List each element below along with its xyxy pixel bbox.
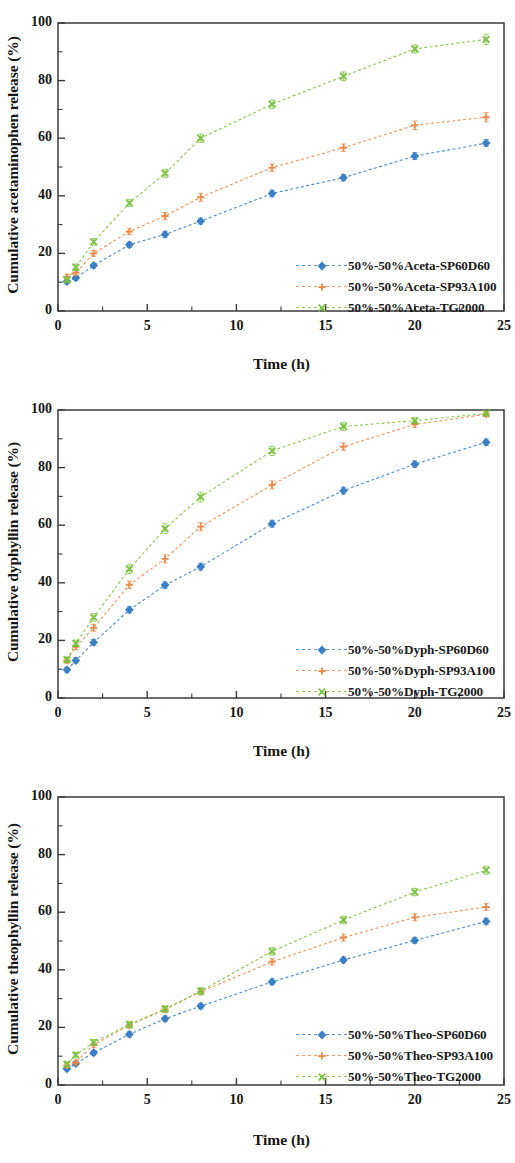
y-tick-label: 40 (18, 961, 52, 977)
y-tick-label: 60 (18, 129, 52, 145)
legend-item[interactable]: 50%-50%Dyph-SP93A100 (296, 661, 495, 680)
legend-item[interactable]: 50%-50%Theo-SP60D60 (296, 1025, 493, 1044)
x-tick-label: 15 (311, 705, 341, 721)
legend-swatch-plus-icon (296, 280, 348, 294)
x-tick-label: 5 (132, 318, 162, 334)
y-tick-label: 80 (18, 72, 52, 88)
x-tick-label: 25 (489, 318, 515, 334)
legend-label: 50%-50%Dyph-TG2000 (348, 684, 483, 700)
x-tick-label: 5 (132, 1092, 162, 1108)
legend-swatch-cross-icon (296, 685, 348, 699)
legend-item[interactable]: 50%-50%Aceta-SP93A100 (296, 277, 496, 296)
x-tick-label: 15 (311, 1092, 341, 1108)
chart-panel-dyphyllin: Cumulative dyphyllin release (%) 50%-50%… (0, 387, 515, 774)
x-tick-label: 0 (43, 705, 73, 721)
x-tick-label: 5 (132, 705, 162, 721)
legend-label: 50%-50%Dyph-SP60D60 (348, 642, 489, 658)
legend-swatch-cross-icon (296, 1070, 348, 1084)
y-tick-label: 100 (18, 788, 52, 804)
y-tick-label: 60 (18, 903, 52, 919)
legend-item[interactable]: 50%-50%Aceta-TG2000 (296, 298, 496, 317)
legend-swatch-diamond-icon (296, 1028, 348, 1042)
legend-item[interactable]: 50%-50%Theo-TG2000 (296, 1067, 493, 1086)
legend-label: 50%-50%Theo-SP93A100 (348, 1048, 493, 1064)
x-tick-label: 0 (43, 318, 73, 334)
y-tick-label: 80 (18, 459, 52, 475)
x-tick-label: 20 (400, 318, 430, 334)
plot-area-acetaminophen (0, 0, 515, 389)
x-axis-title: Time (h) (58, 1131, 505, 1149)
y-tick-label: 40 (18, 574, 52, 590)
x-tick-label: 25 (489, 705, 515, 721)
y-tick-label: 20 (18, 244, 52, 260)
plot-area-theophyllin (0, 774, 515, 1163)
x-tick-label: 15 (311, 318, 341, 334)
legend-dyphyllin: 50%-50%Dyph-SP60D6050%-50%Dyph-SP93A1005… (296, 640, 495, 701)
data-point-marker (318, 1052, 325, 1059)
data-point-marker (319, 262, 326, 269)
legend-swatch-cross-icon (296, 301, 348, 315)
y-tick-label: 80 (18, 846, 52, 862)
data-point-marker (319, 304, 326, 311)
legend-theophyllin: 50%-50%Theo-SP60D6050%-50%Theo-SP93A1005… (296, 1025, 493, 1086)
legend-swatch-diamond-icon (296, 643, 348, 657)
y-tick-label: 0 (18, 302, 52, 318)
legend-item[interactable]: 50%-50%Aceta-SP60D60 (296, 256, 496, 275)
data-point-marker (319, 646, 326, 653)
data-point-marker (319, 1073, 326, 1080)
legend-label: 50%-50%Aceta-SP60D60 (348, 258, 490, 274)
legend-swatch-plus-icon (296, 1049, 348, 1063)
x-tick-label: 20 (400, 1092, 430, 1108)
legend-label: 50%-50%Theo-TG2000 (348, 1069, 481, 1085)
legend-item[interactable]: 50%-50%Theo-SP93A100 (296, 1046, 493, 1065)
legend-label: 50%-50%Aceta-TG2000 (348, 300, 484, 316)
data-point-marker (319, 1031, 326, 1038)
chart-panel-theophyllin: Cumulative theophyllin release (%) 50%-5… (0, 774, 515, 1163)
x-tick-label: 10 (221, 1092, 251, 1108)
y-tick-label: 0 (18, 689, 52, 705)
plot-area-dyphyllin (0, 387, 515, 776)
x-tick-label: 0 (43, 1092, 73, 1108)
legend-swatch-diamond-icon (296, 259, 348, 273)
y-tick-label: 0 (18, 1076, 52, 1092)
legend-item[interactable]: 50%-50%Dyph-TG2000 (296, 682, 495, 701)
y-tick-label: 100 (18, 14, 52, 30)
x-tick-label: 10 (221, 705, 251, 721)
x-axis-title: Time (h) (58, 355, 505, 373)
legend-swatch-plus-icon (296, 664, 348, 678)
x-tick-label: 20 (400, 705, 430, 721)
data-point-marker (319, 688, 326, 695)
data-point-marker (318, 667, 325, 674)
legend-acetaminophen: 50%-50%Aceta-SP60D6050%-50%Aceta-SP93A10… (296, 256, 496, 317)
y-tick-label: 40 (18, 187, 52, 203)
x-tick-label: 25 (489, 1092, 515, 1108)
y-tick-label: 20 (18, 1018, 52, 1034)
y-tick-label: 20 (18, 631, 52, 647)
chart-panel-acetaminophen: Cumulative acetaminophen release (%) 50%… (0, 0, 515, 387)
legend-label: 50%-50%Aceta-SP93A100 (348, 279, 496, 295)
y-tick-label: 100 (18, 401, 52, 417)
legend-label: 50%-50%Theo-SP60D60 (348, 1027, 487, 1043)
figure-stack: Cumulative acetaminophen release (%) 50%… (0, 0, 515, 1163)
legend-item[interactable]: 50%-50%Dyph-SP60D60 (296, 640, 495, 659)
x-axis-title: Time (h) (58, 742, 505, 760)
y-tick-label: 60 (18, 516, 52, 532)
data-point-marker (318, 283, 325, 290)
legend-label: 50%-50%Dyph-SP93A100 (348, 663, 495, 679)
x-tick-label: 10 (221, 318, 251, 334)
